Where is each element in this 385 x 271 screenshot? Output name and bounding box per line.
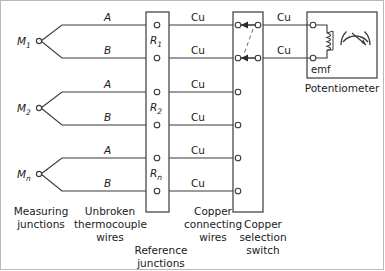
- switch-terminal-in-6: [235, 188, 241, 194]
- reference-junction-dot-na: [154, 155, 160, 161]
- reference-junction-dot-2b: [154, 122, 160, 128]
- potentiometer-internal-wiring: [314, 25, 327, 58]
- copper-label-6: Cu: [191, 177, 205, 189]
- switch-terminal-in-4: [235, 122, 241, 128]
- switch-gang-dashed-link: [244, 29, 253, 54]
- wire-label-b-n: B: [104, 177, 111, 189]
- copper-selection-switch-box: [233, 12, 263, 212]
- copper-label-out-2: Cu: [277, 44, 291, 56]
- caption-unbroken-wires: Unbroken thermocouple wires: [74, 205, 146, 244]
- caption-potentiometer: Potentiometer: [299, 82, 385, 95]
- wire-label-b-1: B: [104, 44, 111, 56]
- reference-junction-dot-1a: [154, 22, 160, 28]
- reference-junction-dot-1b: [154, 55, 160, 61]
- copper-label-out-1: Cu: [277, 11, 291, 23]
- switch-terminal-in-1: [235, 22, 241, 28]
- switch-terminal-out-2: [255, 55, 261, 61]
- switch-terminal-in-2: [235, 55, 241, 61]
- copper-label-2: Cu: [191, 44, 205, 56]
- thermocouple-circuit-diagram: M1 M2 Mn A B A B A B R1 R2 Rn Cu Cu Cu C…: [0, 0, 385, 271]
- measuring-junction-dot-1: [36, 38, 41, 43]
- copper-label-1: Cu: [191, 11, 205, 23]
- thermocouple-pair-2: [41, 92, 146, 125]
- measuring-junction-dot-2: [36, 105, 41, 110]
- reference-junction-dot-nb: [154, 188, 160, 194]
- switch-blade-arrowheads: [241, 22, 248, 62]
- wire-label-a-n: A: [104, 144, 111, 156]
- thermocouple-pair-1: [41, 25, 146, 58]
- copper-label-3: Cu: [191, 78, 205, 90]
- thermocouple-pair-n: [41, 158, 146, 191]
- switch-terminal-in-5: [235, 155, 241, 161]
- wire-label-a-2: A: [104, 78, 111, 90]
- wire-label-b-2: B: [104, 111, 111, 123]
- reference-junction-label-2: R2: [150, 101, 162, 116]
- reference-junction-dot-2a: [154, 89, 160, 95]
- measuring-junction-label-1: M1: [17, 35, 31, 50]
- slidewire-coil-icon: [327, 31, 333, 51]
- potentiometer-terminal-top: [310, 22, 316, 28]
- caption-reference-junctions: Reference junctions: [125, 244, 197, 270]
- emf-label: emf: [311, 64, 330, 75]
- reference-junction-label-1: R1: [150, 34, 162, 49]
- potentiometer-terminal-bottom: [310, 55, 316, 61]
- measuring-junction-label-2: M2: [17, 102, 31, 117]
- switch-terminal-out-1: [255, 22, 261, 28]
- copper-label-4: Cu: [191, 111, 205, 123]
- measuring-junction-label-n: Mn: [17, 168, 31, 183]
- switch-terminal-in-3: [235, 89, 241, 95]
- terminal-dots: [36, 22, 315, 194]
- galvanometer-icon: [341, 32, 370, 46]
- reference-junction-label-n: Rn: [150, 167, 162, 182]
- wire-label-a-1: A: [104, 11, 111, 23]
- caption-measuring-junctions: Measuring junctions: [2, 205, 80, 231]
- caption-copper-selection-switch: Copper selection switch: [213, 218, 313, 257]
- copper-label-5: Cu: [191, 144, 205, 156]
- measuring-junction-dot-n: [36, 171, 41, 176]
